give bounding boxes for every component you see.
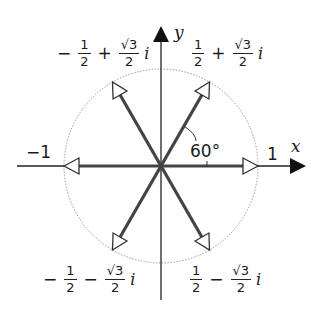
operator: − [84, 269, 98, 289]
angle-arc [184, 126, 196, 141]
vector-300deg [161, 166, 203, 239]
imaginary-unit: i [256, 270, 261, 289]
arrowhead-60deg-icon [195, 78, 216, 99]
vector-120deg [119, 93, 161, 166]
imag-fraction: √3 2 [233, 38, 254, 68]
operator: + [211, 43, 225, 63]
imag-fraction: √3 2 [231, 264, 252, 294]
root-lower-left: − 1 2 − √3 2 i [40, 264, 135, 294]
real-fraction: 1 2 [190, 264, 202, 294]
angle-label: 60° [190, 143, 220, 160]
imaginary-unit: i [258, 44, 263, 63]
x-axis-label: x [291, 138, 301, 155]
imag-fraction: √3 2 [105, 264, 126, 294]
y-axis-label: y [174, 24, 184, 41]
root-upper-left: − 1 2 + √3 2 i [54, 38, 149, 68]
sign: − [43, 269, 57, 289]
arrowhead-120deg-icon [106, 78, 127, 99]
arrowhead-300deg-icon [195, 233, 216, 254]
root-upper-right: 1 2 + √3 2 i [188, 38, 263, 68]
arrowhead-0deg-icon [243, 158, 258, 174]
imag-fraction: √3 2 [119, 38, 140, 68]
y-axis-arrow-icon [153, 26, 169, 42]
x-tick-1: 1 [267, 146, 278, 163]
real-fraction: 1 2 [64, 264, 76, 294]
arrowhead-180deg-icon [64, 158, 79, 174]
operator: + [98, 43, 112, 63]
x-tick-minus-1: −1 [26, 144, 51, 161]
operator: − [209, 269, 223, 289]
real-fraction: 1 2 [192, 38, 204, 68]
sign: − [57, 43, 71, 63]
arrowhead-240deg-icon [106, 233, 127, 254]
real-fraction: 1 2 [78, 38, 90, 68]
vector-240deg [119, 166, 161, 239]
imaginary-unit: i [130, 270, 135, 289]
root-lower-right: 1 2 − √3 2 i [186, 264, 261, 294]
x-axis-arrow-icon [290, 158, 306, 174]
imaginary-unit: i [144, 44, 149, 63]
